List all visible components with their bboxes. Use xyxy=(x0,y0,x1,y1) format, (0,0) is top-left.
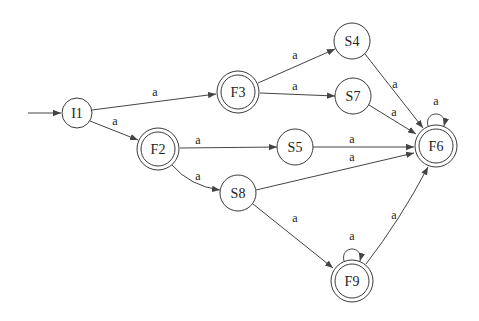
edge-label-S8-F9: a xyxy=(292,211,298,225)
edge-label-F9-F9: a xyxy=(349,229,355,243)
edge-label-S8-F6: a xyxy=(349,150,355,164)
automaton-diagram: a a a a a a a a a a a a xyxy=(0,0,479,321)
edge-label-F6-F6: a xyxy=(433,94,439,108)
edge-F9-F6 xyxy=(366,167,428,264)
edge-F2-S5 xyxy=(180,147,277,148)
edge-F9-self-loop xyxy=(344,249,361,261)
edge-label-F2-S8: a xyxy=(195,169,201,183)
edge-F6-self-loop xyxy=(428,114,445,126)
nodes: I1 F2 F3 S4 S7 S5 S8 xyxy=(62,23,457,302)
edge-label-F2-S5: a xyxy=(195,133,201,147)
edge-F3-S7 xyxy=(260,93,335,96)
svg-text:S4: S4 xyxy=(345,34,360,49)
svg-text:F3: F3 xyxy=(231,85,246,100)
node-F6: F6 xyxy=(415,125,457,167)
node-F2: F2 xyxy=(137,128,179,170)
node-S7: S7 xyxy=(335,78,371,114)
svg-text:I1: I1 xyxy=(71,106,83,121)
edge-label-F9-F6: a xyxy=(391,208,397,222)
edge-label-F3-S7: a xyxy=(292,79,298,93)
edge-label-S4-F6: a xyxy=(392,77,398,91)
node-S5: S5 xyxy=(277,129,313,165)
edge-S8-F6 xyxy=(256,153,414,190)
node-S4: S4 xyxy=(334,23,370,59)
svg-text:S8: S8 xyxy=(231,186,246,201)
edge-label-S7-F6: a xyxy=(391,105,397,119)
svg-text:F6: F6 xyxy=(429,139,444,154)
node-S8: S8 xyxy=(220,175,256,211)
edge-label-I1-F2: a xyxy=(112,114,118,128)
node-F3: F3 xyxy=(217,71,259,113)
svg-text:F2: F2 xyxy=(151,142,166,157)
svg-text:S5: S5 xyxy=(288,140,303,155)
edge-label-F3-S4: a xyxy=(292,48,298,62)
svg-text:F9: F9 xyxy=(345,274,360,289)
edge-label-S5-F6: a xyxy=(349,132,355,146)
svg-text:S7: S7 xyxy=(346,89,361,104)
node-F9: F9 xyxy=(331,260,373,302)
edge-label-I1-F3: a xyxy=(152,85,158,99)
node-I1: I1 xyxy=(62,98,92,128)
